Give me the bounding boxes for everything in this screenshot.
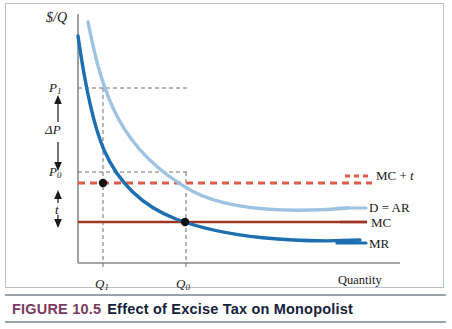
figure-container: $/Q P1 P0 ΔP t Q1 Q0 Quantity MC + t D =…	[0, 0, 452, 329]
curve-label-mc-plus-t-tax: t	[410, 168, 414, 183]
x-axis-label: Quantity	[338, 274, 382, 287]
curve-label-mc-plus-t: MC + t	[376, 169, 414, 182]
equilibrium-point-post-tax	[99, 179, 107, 187]
curve-label-mc-plus-t-prefix: MC +	[376, 168, 410, 183]
curve-label-demand: D = AR	[369, 201, 410, 214]
x-tick-q0-main: Q	[176, 276, 185, 291]
caption-top-rule	[5, 294, 446, 296]
y-tick-label-p0: P0	[49, 165, 61, 180]
figure-number: FIGURE 10.5	[12, 301, 101, 317]
y-tick-p1-sub: 1	[57, 86, 61, 96]
delta-p-label: ΔP	[45, 123, 61, 136]
y-tick-p0-sub: 0	[57, 170, 61, 180]
figure-title: Effect of Excise Tax on Monopolist	[107, 301, 353, 317]
equilibrium-point-pre-tax	[181, 218, 189, 226]
figure-caption: FIGURE 10.5 Effect of Excise Tax on Mono…	[12, 299, 353, 319]
curve-label-marginal-cost: MC	[371, 216, 391, 229]
x-tick-q1-main: Q	[95, 276, 104, 291]
y-tick-label-p1: P1	[49, 81, 61, 96]
y-tick-p1-main: P	[49, 80, 57, 95]
x-tick-q0-sub: 0	[185, 282, 189, 292]
caption-bottom-rule	[5, 321, 446, 323]
x-tick-q1-sub: 1	[104, 282, 108, 292]
x-tick-label-q0: Q0	[176, 277, 190, 292]
y-axis-label: $/Q	[46, 11, 67, 25]
tax-label: t	[55, 203, 59, 216]
curve-label-marginal-revenue: MR	[369, 237, 389, 250]
x-tick-label-q1: Q1	[95, 277, 109, 292]
y-tick-p0-main: P	[49, 164, 57, 179]
